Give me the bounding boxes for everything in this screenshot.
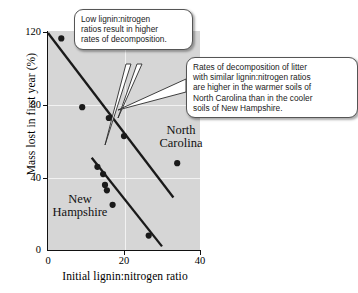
series-label-new-hampshire: New Hampshire [44, 193, 116, 219]
callout-rates-line5: soils of New Hampshire. [193, 103, 351, 113]
data-point-new-hampshire-2 [102, 182, 108, 188]
data-point-north-carolina-2 [106, 115, 112, 121]
leader-low-lignin-a [105, 64, 131, 145]
data-point-north-carolina-4 [174, 160, 180, 166]
callout-rates-comparison: Rates of decomposition of litter with si… [186, 57, 358, 118]
callout-low-lignin-line2: ratios result in higher [81, 24, 186, 34]
callout-low-lignin: Low lignin:nitrogen ratios result in hig… [74, 9, 193, 50]
data-point-north-carolina-3 [121, 133, 127, 139]
series-label-north-carolina-line2: Carolina [150, 137, 212, 150]
trendline-north-carolina [48, 33, 173, 198]
callout-rates-line2: with similar lignin:nitrogen ratios [193, 72, 351, 82]
figure-caption [0, 283, 354, 293]
series-label-new-hampshire-line2: Hampshire [44, 206, 116, 219]
data-point-new-hampshire-0 [94, 164, 100, 170]
callout-rates-line3: are higher in the warmer soils of [193, 82, 351, 92]
data-point-new-hampshire-1 [100, 171, 106, 177]
callout-rates-line4: North Carolina than in the cooler [193, 93, 351, 103]
callout-rates-line1: Rates of decomposition of litter [193, 62, 351, 72]
data-point-north-carolina-0 [58, 35, 64, 41]
callout-low-lignin-line3: rates of decomposition. [81, 34, 186, 44]
data-point-north-carolina-1 [79, 104, 85, 110]
callout-low-lignin-line1: Low lignin:nitrogen [81, 14, 186, 24]
series-label-north-carolina: North Carolina [150, 124, 212, 150]
data-point-new-hampshire-5 [146, 232, 152, 238]
